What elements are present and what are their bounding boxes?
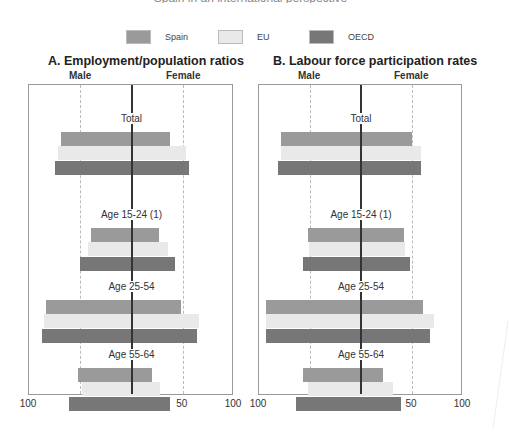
legend-item-spain: Spain: [126, 29, 188, 44]
bar-spain: [78, 368, 152, 382]
gridline-female-50: [412, 85, 413, 394]
panel-a-male-label: Male: [69, 70, 91, 81]
bar-oecd: [278, 161, 421, 175]
bar-eu: [308, 382, 393, 396]
bar-eu: [266, 314, 434, 328]
bar-spain: [46, 300, 180, 314]
gridline-female-50: [183, 85, 184, 394]
panel-b-plot-area: TotalAge 15-24 (1)Age 25-54Age 55-64: [258, 84, 462, 395]
legend-item-eu: EU: [218, 29, 270, 44]
panel-a-title: A. Employment/population ratios: [48, 54, 244, 68]
category-label: Age 55-64: [336, 349, 386, 360]
bar-spain: [61, 132, 171, 146]
bar-eu: [309, 242, 405, 256]
bar-eu: [88, 242, 168, 256]
category-label: Age 15-24 (1): [328, 209, 393, 220]
legend-item-oecd: OECD: [309, 29, 374, 44]
page-edge-shadow: [492, 320, 508, 429]
category-label: Total: [348, 113, 373, 124]
bar-oecd: [303, 257, 410, 271]
legend-swatch-eu: [218, 30, 243, 44]
panel-b-male-label: Male: [298, 70, 320, 81]
bar-spain: [266, 300, 423, 314]
legend-label-spain: Spain: [165, 32, 188, 42]
bar-spain: [303, 368, 384, 382]
legend-swatch-spain: [126, 30, 151, 44]
panel-b-female-label: Female: [394, 70, 428, 81]
x-tick-label: 100: [250, 398, 267, 409]
zero-axis: [131, 85, 133, 394]
panel-b-title: B. Labour force participation rates: [273, 54, 477, 68]
category-label: Age 15-24 (1): [99, 209, 164, 220]
bar-oecd: [80, 257, 174, 271]
category-label: Total: [119, 113, 144, 124]
x-tick-label: 50: [176, 398, 187, 409]
category-label: Age 25-54: [336, 281, 386, 292]
legend-label-oecd: OECD: [348, 32, 374, 42]
clipped-heading: Spain in an international perspective: [0, 0, 501, 3]
panel-a-plot-area: TotalAge 15-24 (1)Age 25-54Age 55-64: [28, 84, 233, 395]
bar-eu: [281, 146, 421, 160]
bar-spain: [308, 228, 404, 242]
panel-a-female-label: Female: [166, 70, 200, 81]
bar-eu: [82, 382, 160, 396]
bar-oecd: [266, 329, 430, 343]
bar-eu: [58, 146, 186, 160]
bar-spain: [91, 228, 160, 242]
legend-swatch-oecd: [309, 30, 334, 44]
x-tick-label: 100: [225, 398, 242, 409]
x-tick-label: 100: [454, 398, 471, 409]
category-label: Age 25-54: [106, 281, 156, 292]
bar-oecd: [296, 397, 401, 411]
bar-oecd: [42, 329, 197, 343]
x-tick-label: 50: [405, 398, 416, 409]
category-label: Age 55-64: [106, 349, 156, 360]
legend-label-eu: EU: [257, 32, 270, 42]
zero-axis: [360, 85, 362, 394]
bar-oecd: [55, 161, 189, 175]
bar-oecd: [69, 397, 170, 411]
bar-eu: [44, 314, 199, 328]
bar-spain: [281, 132, 412, 146]
x-tick-label: 100: [20, 398, 37, 409]
